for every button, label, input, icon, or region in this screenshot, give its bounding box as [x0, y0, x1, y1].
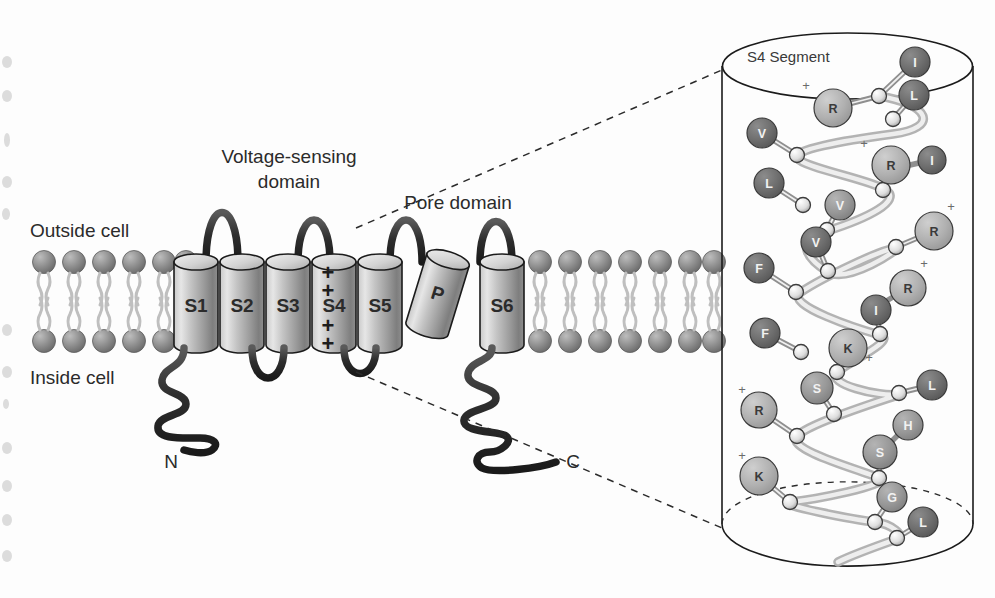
voltage-sensing-domain-label-line1: Voltage-sensing: [221, 146, 356, 167]
lipid-head-icon: [649, 330, 672, 353]
residue-letter: K: [754, 470, 763, 484]
lipid-head-icon: [93, 251, 116, 274]
inset-top-ellipse: [723, 33, 973, 99]
residue-r-9: R+: [915, 199, 955, 250]
lipid-head-icon: [619, 330, 642, 353]
lipid-head-icon: [93, 330, 116, 353]
residue-letter: R: [754, 404, 763, 418]
residue-letter: F: [761, 327, 769, 341]
voltage-sensing-domain-label-line2: domain: [258, 171, 320, 192]
residue-i-0: I: [900, 47, 930, 77]
lipid-head-icon: [33, 251, 56, 274]
residue-letter: R: [828, 102, 837, 116]
lipid-inner-left: [33, 298, 198, 353]
segment-cylinder-S6: S6: [480, 254, 524, 353]
residue-s-18: S: [863, 435, 897, 469]
lipid-head-icon: [123, 330, 146, 353]
residue-v-3: V: [747, 118, 777, 148]
segment-label-S3: S3: [276, 295, 299, 316]
segment-label-S6: S6: [490, 295, 513, 316]
segment-label-S2: S2: [230, 295, 253, 316]
residue-l-22: L: [908, 507, 938, 537]
segment-label-S1: S1: [184, 295, 208, 316]
lipid-head-icon: [589, 330, 612, 353]
residue-charge-plus: +: [947, 199, 955, 214]
residue-letter: R: [886, 159, 895, 173]
lipid-head-icon: [649, 251, 672, 274]
residue-f-10: F: [744, 253, 774, 283]
membrane-bilayer-left: [33, 251, 198, 353]
lipid-head-icon: [619, 251, 642, 274]
outside-cell-label: Outside cell: [30, 220, 129, 241]
lipid-head-icon: [123, 251, 146, 274]
residue-l-2: L: [899, 80, 929, 110]
membrane-bilayer-right: [529, 251, 726, 353]
lipid-head-icon: [589, 251, 612, 274]
residue-letter: H: [903, 419, 912, 433]
lipid-inner-right: [529, 298, 726, 353]
lipid-outer-right: [529, 251, 726, 306]
residue-charge-plus: +: [920, 256, 928, 271]
segment-cylinder-P: P: [404, 246, 472, 343]
lipid-head-icon: [63, 251, 86, 274]
diagram-canvas: S1 S2 S3 + + S4 + +: [0, 0, 995, 598]
c-terminus-chain: C: [464, 348, 580, 472]
pore-domain-label: Pore domain: [404, 192, 512, 213]
n-terminus-chain: N: [158, 348, 216, 472]
residue-letter: L: [919, 516, 927, 530]
residue-letter: S: [876, 446, 884, 460]
inside-cell-label: Inside cell: [30, 367, 115, 388]
residue-letter: L: [910, 89, 918, 103]
intracellular-loops: [252, 348, 376, 378]
lipid-head-icon: [63, 330, 86, 353]
residue-charge-plus: +: [738, 448, 746, 463]
c-terminus-label: C: [566, 451, 580, 472]
lipid-head-icon: [679, 330, 702, 353]
residue-letter: K: [843, 342, 852, 356]
residue-letter: L: [928, 379, 936, 393]
residue-l-16: L: [917, 370, 947, 400]
segment-cylinder-S1: S1: [174, 254, 218, 353]
residue-letter: R: [903, 282, 912, 296]
residue-charge-plus: +: [802, 78, 810, 93]
residue-letter: L: [765, 177, 773, 191]
lipid-head-icon: [559, 251, 582, 274]
segment-cylinder-S4: + + S4 + +: [312, 254, 356, 356]
residue-v-8: V: [801, 227, 831, 257]
residue-r-1: R+: [802, 78, 852, 127]
scan-edge-artifacts: [2, 56, 12, 562]
transmembrane-segments: S1 S2 S3 + + S4 + +: [174, 246, 524, 356]
s4-charge-4: +: [322, 331, 335, 356]
residue-g-21: G: [877, 482, 907, 512]
residue-r-12: R+: [890, 256, 928, 306]
residue-letter: S: [813, 382, 821, 396]
residue-letter: G: [887, 491, 897, 505]
residue-letter: V: [836, 199, 845, 213]
residue-f-13: F: [750, 318, 780, 348]
residue-letter: V: [812, 236, 821, 250]
residue-i-11: I: [861, 295, 891, 325]
lipid-head-icon: [529, 330, 552, 353]
residue-l-6: L: [754, 168, 784, 198]
residue-letter: I: [930, 154, 933, 168]
lower-leader-line: [356, 372, 722, 528]
lipid-outer-left: [33, 251, 198, 306]
lipid-head-icon: [529, 251, 552, 274]
lipid-head-icon: [679, 251, 702, 274]
figure-root: S1 S2 S3 + + S4 + +: [0, 0, 995, 598]
residue-s-15: S: [801, 372, 833, 404]
lipid-head-icon: [153, 251, 176, 274]
residue-letter: V: [758, 127, 767, 141]
s4-segment-title: S4 Segment: [747, 48, 830, 65]
residue-k-20: K+: [738, 448, 778, 495]
residue-h-19: H: [893, 410, 923, 440]
residue-charge-plus: +: [860, 136, 868, 151]
segment-cylinder-S5: S5: [358, 254, 402, 353]
residue-charge-plus: +: [865, 350, 873, 365]
residue-v-7: V: [825, 190, 855, 220]
residue-letter: F: [755, 262, 763, 276]
residue-letter: I: [874, 304, 877, 318]
residue-i-5: I: [918, 146, 946, 174]
residue-letter: I: [913, 56, 916, 70]
lipid-head-icon: [33, 330, 56, 353]
